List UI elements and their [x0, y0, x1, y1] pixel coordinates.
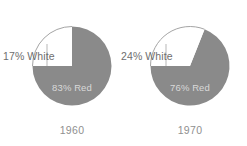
pie-label-1970-red: 76% Red: [170, 82, 210, 93]
pie-charts-svg: 17% White 83% Red 1960 24% White 76% Red…: [0, 0, 247, 146]
pie-label-1960-white: 17% White: [3, 50, 55, 62]
pie-year-label-1960: 1960: [60, 124, 85, 136]
pie-year-label-1970: 1970: [178, 124, 203, 136]
pie-chart-figure: 17% White 83% Red 1960 24% White 76% Red…: [0, 0, 247, 146]
pie-chart-1970: 24% White 76% Red 1970: [121, 27, 230, 136]
pie-label-1960-red: 83% Red: [52, 82, 92, 93]
pie-chart-1960: 17% White 83% Red 1960: [3, 27, 112, 137]
pie-label-1970-white: 24% White: [121, 50, 173, 62]
